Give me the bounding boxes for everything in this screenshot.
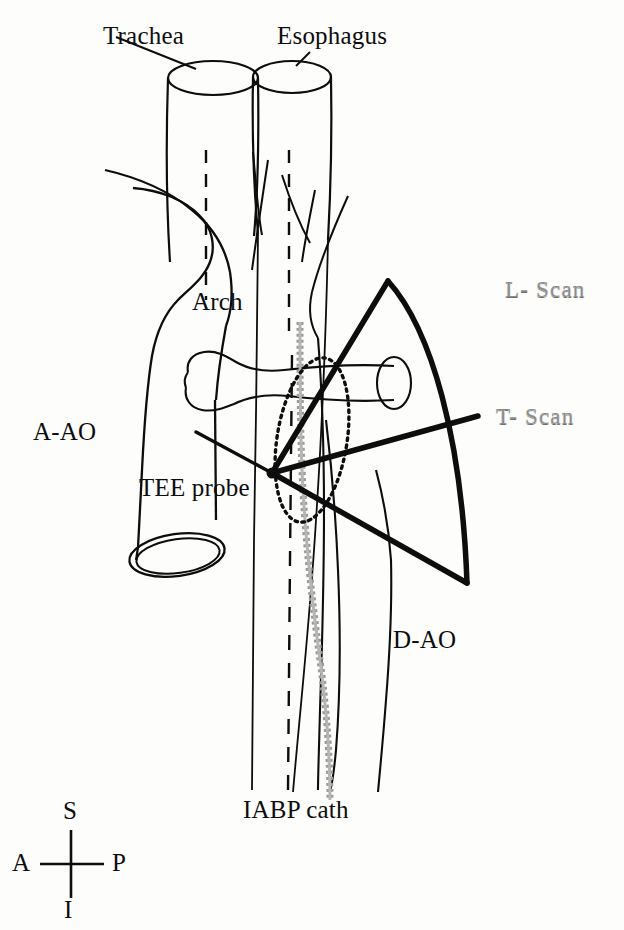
probe-apex-dot	[267, 468, 278, 479]
orientation-compass-cross	[40, 830, 104, 898]
ascending-aorta-base-ellipse	[127, 528, 228, 583]
compass-label-anterior: A	[12, 849, 30, 877]
figure-root: Trachea Esophagus Arch A-AO D-AO TEE pro…	[0, 0, 624, 930]
compass-label-superior: S	[63, 797, 77, 825]
branch-vessel-4	[302, 190, 315, 262]
iabp-catheter	[300, 322, 330, 800]
dashed-line-esophagus-lower	[288, 355, 292, 790]
aorta-right-wall-upper	[216, 326, 226, 400]
transverse-scan-plane-ellipse	[264, 353, 359, 528]
dao-far-right-wall	[378, 560, 391, 792]
rpa-left-cap	[185, 372, 188, 388]
label-trachea: Trachea	[103, 22, 184, 50]
sector-lower-edge	[272, 473, 467, 583]
label-esophagus: Esophagus	[277, 22, 387, 50]
label-arch: Arch	[192, 288, 243, 316]
label-ascending-aorta: A-AO	[33, 418, 96, 446]
transverse-scan-line-left	[196, 432, 272, 473]
branch-vessel-5-tail	[310, 292, 318, 338]
dao-far-right-wall-upper	[376, 470, 391, 560]
esophagus-lower-walls	[252, 233, 328, 792]
diagram-svg	[0, 0, 624, 930]
trachea-top-ellipse	[168, 61, 258, 95]
esophagus-top-ellipse	[253, 61, 331, 93]
tee-probe-apex	[267, 468, 278, 479]
iabp-catheter-core	[300, 322, 330, 800]
esophagus-structure	[253, 52, 332, 240]
rpa-right-end-ellipse	[377, 357, 411, 409]
label-longitudinal-scan: L- Scan	[505, 277, 586, 303]
ascending-aorta-right-wall	[215, 400, 216, 520]
label-descending-aorta: D-AO	[393, 626, 456, 654]
transverse-scan-line-group	[196, 416, 478, 473]
esophagus-left-wall-lower	[252, 233, 258, 790]
trachea-left-wall	[167, 78, 170, 262]
label-iabp-catheter: IABP cath	[243, 796, 349, 824]
esophagus-leader-line	[296, 52, 310, 66]
label-tee-probe: TEE probe	[139, 474, 250, 502]
aorta-base-inner-ellipse	[134, 533, 222, 578]
trachea-structure	[116, 37, 258, 262]
compass-label-inferior: I	[64, 896, 73, 924]
label-transverse-scan: T- Scan	[496, 404, 574, 430]
iabp-catheter-stripe	[300, 322, 330, 800]
compass-label-posterior: P	[112, 849, 126, 877]
arch-branch-vessels	[252, 152, 348, 338]
esophagus-right-wall-upper	[328, 77, 331, 240]
transverse-plane-outline	[264, 353, 359, 528]
